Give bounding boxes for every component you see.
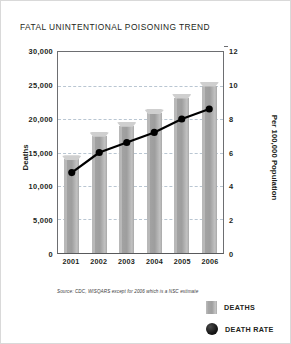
chart-legend: DEATHS DEATH RATE bbox=[206, 301, 274, 344]
y-tick: 0 bbox=[49, 250, 53, 259]
secondary-y-axis-label: Per 100,000 Population bbox=[270, 103, 279, 213]
y-tick: 30,000 bbox=[29, 47, 53, 56]
plot-area bbox=[57, 51, 224, 254]
legend-item-death-rate: DEATH RATE bbox=[206, 323, 274, 335]
death-rate-marker bbox=[206, 105, 213, 112]
y2-tick: 0 bbox=[229, 250, 233, 259]
x-axis-ticks: 200120022003200420052006 bbox=[57, 257, 224, 269]
y-axis-ticks: 30,000 25,000 20,000 15,000 10,000 5,000… bbox=[7, 51, 53, 254]
x-tick: 2005 bbox=[168, 257, 196, 269]
death-rate-marker bbox=[123, 139, 130, 146]
y2-tick: 4 bbox=[229, 182, 233, 191]
y-tick: 5,000 bbox=[33, 216, 53, 225]
bar-swatch-icon bbox=[206, 301, 217, 314]
y-tick: 20,000 bbox=[29, 114, 53, 123]
x-tick: 2001 bbox=[57, 257, 85, 269]
y2-tick: 8 bbox=[229, 114, 233, 123]
x-tick: 2003 bbox=[113, 257, 141, 269]
chart-title: FATAL UNINTENTIONAL POISONING TREND bbox=[20, 22, 210, 32]
death-rate-marker bbox=[178, 115, 185, 122]
secondary-y-axis-ticks: 12 10 8 6 4 2 0 bbox=[229, 51, 255, 254]
y2-tick: 6 bbox=[229, 148, 233, 157]
death-rate-marker bbox=[68, 169, 75, 176]
y2-tick: 12 bbox=[229, 47, 238, 56]
x-tick: 2004 bbox=[141, 257, 169, 269]
death-rate-marker bbox=[151, 129, 158, 136]
y-tick: 15,000 bbox=[29, 148, 53, 157]
y-tick: 25,000 bbox=[29, 80, 53, 89]
y2-tick: 2 bbox=[229, 216, 233, 225]
chart-figure: FATAL UNINTENTIONAL POISONING TREND 30,0… bbox=[0, 0, 291, 344]
y-axis-label: Deaths bbox=[21, 128, 30, 188]
legend-label-deaths: DEATHS bbox=[224, 303, 255, 312]
y2-tick: 10 bbox=[229, 80, 238, 89]
death-rate-line-layer bbox=[58, 52, 223, 253]
death-rate-line bbox=[72, 109, 209, 173]
source-note: Source: CDC, WISQARS except for 2006 whi… bbox=[57, 289, 207, 294]
dot-swatch-icon bbox=[206, 323, 218, 335]
legend-item-deaths: DEATHS bbox=[206, 301, 274, 314]
x-tick: 2002 bbox=[85, 257, 113, 269]
death-rate-marker bbox=[96, 149, 103, 156]
legend-label-death-rate: DEATH RATE bbox=[225, 325, 274, 334]
y-tick: 10,000 bbox=[29, 182, 53, 191]
x-tick: 2006 bbox=[196, 257, 224, 269]
